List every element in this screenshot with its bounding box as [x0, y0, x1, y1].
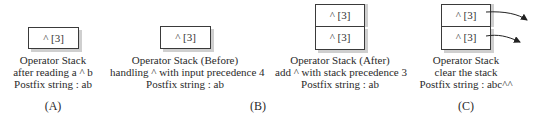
pop-arrows: [0, 0, 545, 118]
pop-arrow-top-icon: [486, 12, 527, 20]
pop-arrow-bottom-icon: [486, 35, 520, 42]
